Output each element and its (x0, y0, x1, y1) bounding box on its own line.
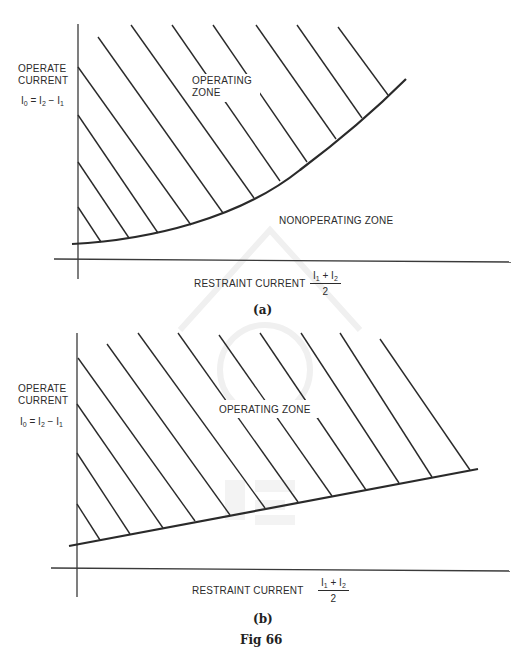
hatch-line (78, 207, 101, 242)
panel-a-x-axis (54, 259, 511, 262)
hatch-line (340, 333, 432, 477)
panel-a-y-label-line2: CURRENT (18, 75, 68, 87)
hatch-line (77, 504, 100, 540)
eq-symbol: − I (46, 95, 60, 106)
panel-b-y-axis-label: OPERATE CURRENT (18, 383, 68, 407)
panel-b-operating-zone-label: OPERATING ZONE (219, 404, 311, 416)
frac-subscript: 2 (334, 275, 338, 282)
hatch-line (78, 115, 158, 233)
panel-a-caption: (a) (253, 303, 272, 317)
frac-symbol: + I (328, 577, 342, 588)
panel-b-caption: (b) (253, 612, 273, 626)
fraction-denominator: 2 (310, 284, 341, 297)
hatch-line (107, 344, 230, 515)
panel-a-operating-zone-label: OPERATING ZONE (192, 75, 252, 99)
eq-symbol: = I (27, 416, 41, 427)
fraction-numerator: I1 + I2 (310, 270, 341, 284)
figure-canvas (0, 0, 529, 652)
hatch-line (338, 27, 388, 95)
hatch-line (78, 358, 195, 521)
hatch-line (138, 333, 265, 508)
panel-b-x-axis (51, 568, 510, 571)
panel-a-y-label-line1: OPERATE (18, 63, 68, 75)
zone-label-line2: ZONE (192, 87, 252, 99)
hatch-line (78, 67, 191, 225)
eq-symbol: − I (45, 416, 59, 427)
panel-b-y-label-line1: OPERATE (18, 383, 68, 395)
eq-subscript: 1 (60, 100, 64, 107)
figure-caption: Fig 66 (240, 633, 282, 647)
hatch-line (78, 162, 129, 238)
frac-symbol: + I (320, 270, 334, 281)
panel-a-x-axis-label: RESTRAINT CURRENT (194, 278, 306, 290)
panel-b-x-fraction: I1 + I2 2 (318, 577, 349, 604)
hatch-line (297, 25, 362, 118)
hatch-line (256, 25, 336, 139)
panel-b-y-equation: I0 = I2 − I1 (20, 416, 63, 428)
panel-a-nonoperating-zone-label: NONOPERATING ZONE (279, 215, 393, 227)
hatch-line (98, 37, 223, 213)
eq-subscript: 1 (59, 421, 63, 428)
panel-a-x-fraction: I1 + I2 2 (310, 270, 341, 297)
panel-b-plot (51, 333, 510, 597)
eq-symbol: = I (28, 95, 42, 106)
hatch-line (77, 404, 163, 528)
panel-a-y-axis-label: OPERATE CURRENT (18, 63, 68, 87)
fraction-denominator: 2 (318, 591, 349, 604)
fraction-numerator: I1 + I2 (318, 577, 349, 591)
panel-b-x-axis-label: RESTRAINT CURRENT (192, 585, 304, 597)
hatch-line (380, 339, 470, 470)
hatch-line (131, 25, 254, 198)
panel-a-y-equation: I0 = I2 − I1 (21, 95, 64, 107)
frac-subscript: 2 (342, 582, 346, 589)
zone-label-line1: OPERATING (192, 75, 252, 87)
panel-b-y-label-line2: CURRENT (18, 395, 68, 407)
hatch-line (77, 453, 130, 534)
